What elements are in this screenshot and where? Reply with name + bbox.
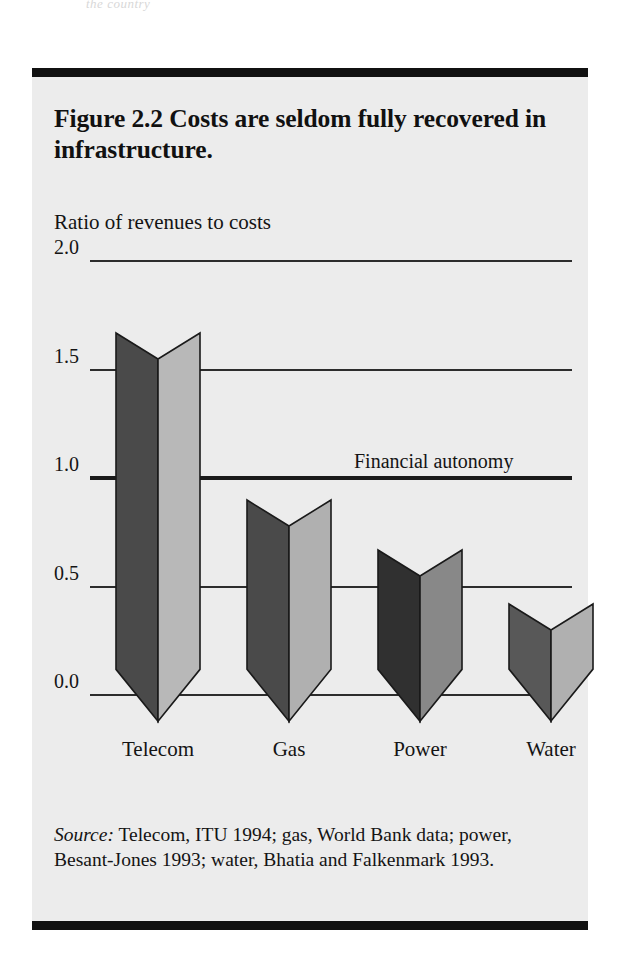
bar-telecom <box>116 333 200 721</box>
scan-artifact-text: the country <box>86 0 286 18</box>
source-text: Telecom, ITU 1994; gas, World Bank data;… <box>54 824 512 870</box>
figure-bottom-rule <box>32 921 588 930</box>
y-tick-label: 1.5 <box>54 346 86 366</box>
bar-right-face <box>420 550 462 721</box>
annotation-label: Financial autonomy <box>354 450 513 473</box>
x-tick-label-telecom: Telecom <box>91 737 225 762</box>
y-tick-label: 0.5 <box>54 563 86 583</box>
bar-water <box>509 604 593 721</box>
y-tick-label: 0.0 <box>54 671 86 691</box>
bar-left-face <box>378 550 420 721</box>
bar-power <box>378 550 462 721</box>
source-label: Source: <box>54 824 114 845</box>
x-tick-label-power: Power <box>353 737 487 762</box>
figure-top-rule <box>32 68 588 77</box>
x-tick-label-water: Water <box>484 737 618 762</box>
bar-right-face <box>158 333 200 721</box>
figure-title: Figure 2.2 Costs are seldom fully recove… <box>54 103 564 165</box>
figure-container: Figure 2.2 Costs are seldom fully recove… <box>32 68 588 930</box>
y-tick-label: 1.0 <box>54 454 86 474</box>
gridline-2.0 <box>90 260 572 262</box>
x-tick-label-gas: Gas <box>222 737 356 762</box>
y-tick-label: 2.0 <box>54 237 86 257</box>
source-note: Source: Telecom, ITU 1994; gas, World Ba… <box>54 822 564 872</box>
plot-area: 0.00.51.01.52.0Financial autonomyTelecom… <box>54 247 572 752</box>
bar-left-face <box>247 500 289 721</box>
bar-left-face <box>509 604 551 721</box>
bar-right-face <box>289 500 331 721</box>
figure-inner: Figure 2.2 Costs are seldom fully recove… <box>32 77 588 921</box>
bar-gas <box>247 500 331 721</box>
bar-left-face <box>116 333 158 721</box>
y-axis-caption: Ratio of revenues to costs <box>54 210 271 235</box>
bar-right-face <box>551 604 593 721</box>
